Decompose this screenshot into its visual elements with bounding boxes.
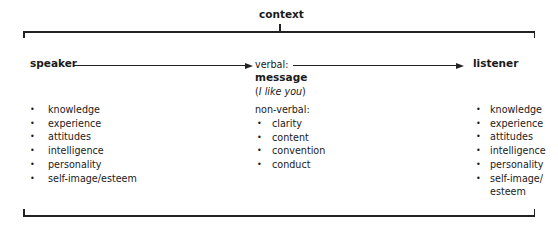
list-item: conduct <box>257 158 325 172</box>
top-bracket-line <box>23 31 535 33</box>
nonverbal-list: clarity content convention conduct <box>257 117 325 172</box>
list-item: self-image/esteem <box>28 172 137 186</box>
list-item: knowledge <box>474 103 546 117</box>
top-bracket-left-tick <box>23 31 25 38</box>
verbal-label: verbal: <box>255 58 288 72</box>
message-example: (I like you) <box>255 85 306 99</box>
list-item: intelligence <box>474 144 546 158</box>
bottom-bracket-right-tick <box>534 209 536 216</box>
list-item: experience <box>28 117 137 131</box>
context-tick <box>279 24 281 31</box>
list-item: personality <box>28 158 137 172</box>
listener-label: listener <box>473 57 518 69</box>
list-item-continuation: esteem <box>474 185 546 199</box>
arrow-message-to-listener <box>293 65 456 66</box>
list-item: attitudes <box>474 130 546 144</box>
nonverbal-label: non-verbal: <box>255 103 310 117</box>
bottom-bracket-left-tick <box>23 209 25 216</box>
list-item: self-image/ <box>474 172 546 186</box>
list-item: convention <box>257 144 325 158</box>
message-label: message <box>255 71 307 83</box>
list-item: personality <box>474 158 546 172</box>
arrow-head-icon <box>456 63 464 69</box>
arrow-speaker-to-message <box>73 65 245 66</box>
arrow-head-icon <box>245 63 253 69</box>
listener-attributes-list: knowledge experience attitudes intellige… <box>474 103 546 199</box>
list-item: content <box>257 131 325 145</box>
list-item: attitudes <box>28 130 137 144</box>
list-item: clarity <box>257 117 325 131</box>
top-bracket-right-tick <box>534 31 536 38</box>
list-item: experience <box>474 117 546 131</box>
speaker-label: speaker <box>30 57 77 69</box>
list-item: knowledge <box>28 103 137 117</box>
speaker-attributes-list: knowledge experience attitudes intellige… <box>28 103 137 185</box>
list-item: intelligence <box>28 144 137 158</box>
context-title: context <box>259 8 304 20</box>
bottom-bracket-line <box>23 215 535 217</box>
